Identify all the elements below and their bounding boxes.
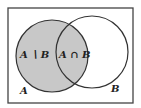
label-a-minus-b: A ∖ B: [19, 49, 49, 60]
venn-diagram: A ∖ B A ∩ B A B: [0, 0, 141, 108]
label-a-intersect-b: A ∩ B: [58, 49, 91, 60]
label-set-a: A: [19, 85, 28, 96]
label-set-b: B: [110, 83, 119, 94]
